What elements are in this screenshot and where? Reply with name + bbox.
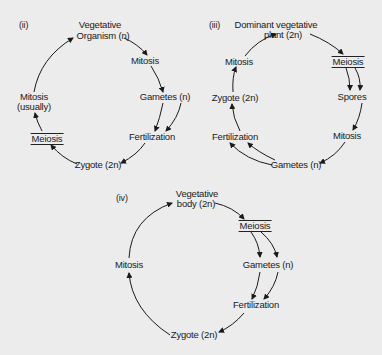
arrow-iii-gametes-to-fert-b <box>248 143 275 160</box>
arrow-iv-zygote-to-mitosis <box>129 273 170 335</box>
node-fertilization: Fertilization <box>129 132 175 142</box>
arrow-ii-zygote-to-meiosis <box>51 145 77 164</box>
arrow-ii-mitosis-to-gametes <box>151 66 163 92</box>
life-cycle-figure: (ii) Vegetative Organism (n) Mitosis Gam… <box>0 0 382 355</box>
node-mitosis: Mitosis <box>131 56 159 66</box>
node-meiosis: Meiosis <box>239 220 272 232</box>
node-zygote: Zygote (2n) <box>171 330 217 340</box>
node-spores: Spores <box>338 92 367 102</box>
node-fertilization: Fertilization <box>212 132 258 142</box>
arrow-iii-spores-to-mitosis <box>353 103 362 130</box>
node-zygote: Zygote (2n) <box>212 93 258 103</box>
arrow-iii-meiosis-to-spores-b <box>355 68 360 90</box>
arrow-iii-gametes-to-fert-a <box>230 143 272 165</box>
arrow-iv-gametes-to-fert-b <box>264 272 278 299</box>
arrow-ii-fert-to-zygote <box>121 143 145 163</box>
node-mitosis-usually-line2: (usually) <box>17 102 51 112</box>
node-vegetative-organism-line1: Vegetative <box>79 20 121 30</box>
node-mitosis-left: Mitosis <box>225 57 253 67</box>
arrow-ii-gametes-to-fert-b <box>166 103 181 131</box>
arrow-ii-meiosis-to-mitosis <box>35 113 42 131</box>
arrow-iv-gametes-to-fert-a <box>252 272 260 299</box>
arrow-iv-fert-to-zygote <box>219 313 244 332</box>
diagram-tag-iii: (iii) <box>209 20 220 30</box>
node-gametes: Gametes (n) <box>140 92 191 102</box>
node-gametes: Gametes (n) <box>243 260 294 270</box>
node-meiosis: Meiosis <box>31 133 64 145</box>
node-gametes: Gametes (n) <box>271 160 322 170</box>
arrow-ii-gametes-to-fert-a <box>155 103 163 131</box>
arrow-iv-meiosis-to-gametes-a <box>251 232 260 257</box>
node-mitosis-right: Mitosis <box>333 131 361 141</box>
cycle-arrows <box>0 0 382 355</box>
diagram-tag-ii: (ii) <box>19 20 28 30</box>
arrow-iv-mitosis-to-body <box>129 203 172 258</box>
arrow-iii-mitosis-to-gametes <box>320 142 345 163</box>
arrow-iii-meiosis-to-spores-a <box>346 68 350 90</box>
node-vegetative-body-line2: body (2n) <box>177 199 215 209</box>
arrow-iv-meiosis-to-gametes-b <box>261 232 277 257</box>
arrow-iv-body-to-meiosis <box>215 203 244 219</box>
arrow-iii-fert-to-zygote <box>232 104 240 131</box>
diagram-tag-iv: (iv) <box>116 193 128 203</box>
node-vegetative-organism-line2: Organism (n) <box>76 31 129 41</box>
node-dominant-plant-line2: plant (2n) <box>264 30 302 40</box>
arrow-ii-mitosis-to-organism <box>34 38 73 92</box>
node-mitosis: Mitosis <box>115 260 143 270</box>
node-fertilization: Fertilization <box>233 300 279 310</box>
arrow-iii-plant-to-meiosis <box>310 34 343 54</box>
node-meiosis: Meiosis <box>332 56 365 68</box>
arrow-iii-zygote-to-mitosis <box>233 67 236 92</box>
node-zygote: Zygote (2n) <box>75 160 121 170</box>
